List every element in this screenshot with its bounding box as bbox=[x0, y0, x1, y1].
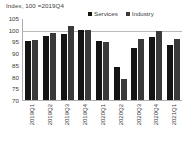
x-tick-cell: 2020Q1 bbox=[94, 102, 112, 144]
bar-services[interactable] bbox=[25, 41, 31, 100]
x-tick-cell: 2020Q3 bbox=[130, 102, 148, 144]
bar-groups bbox=[23, 19, 182, 100]
x-tick-cell: 2021Q1 bbox=[165, 102, 183, 144]
bar-group bbox=[129, 19, 147, 100]
legend-label-industry: Industry bbox=[132, 10, 154, 17]
x-axis-labels: 2019Q12019Q22019Q32019Q42020Q12020Q22020… bbox=[23, 102, 183, 144]
bar-group bbox=[76, 19, 94, 100]
x-tick-label: 2019Q3 bbox=[64, 104, 70, 125]
bar-group bbox=[164, 19, 182, 100]
x-tick-cell: 2019Q3 bbox=[59, 102, 77, 144]
bar-group bbox=[111, 19, 129, 100]
legend-item-industry[interactable]: Industry bbox=[126, 10, 154, 17]
chart-legend: Services Industry bbox=[88, 10, 154, 17]
bar-services[interactable] bbox=[61, 34, 67, 100]
bar-industry[interactable] bbox=[32, 40, 38, 100]
x-tick-cell: 2019Q1 bbox=[23, 102, 41, 144]
y-tick-label: 90 bbox=[12, 51, 19, 57]
x-tick-label: 2021Q1 bbox=[171, 104, 177, 125]
bar-services[interactable] bbox=[78, 30, 84, 100]
bar-industry[interactable] bbox=[103, 42, 109, 100]
bar-industry[interactable] bbox=[50, 33, 56, 100]
bar-industry[interactable] bbox=[174, 39, 180, 100]
bar-industry[interactable] bbox=[121, 79, 127, 100]
y-tick-label: 95 bbox=[12, 39, 19, 45]
bar-services[interactable] bbox=[114, 67, 120, 100]
y-tick-label: 70 bbox=[12, 98, 19, 104]
bar-group bbox=[23, 19, 41, 100]
x-tick-cell: 2019Q2 bbox=[41, 102, 59, 144]
bar-industry[interactable] bbox=[85, 30, 91, 100]
x-tick-label: 2020Q2 bbox=[118, 104, 124, 125]
bar-group bbox=[94, 19, 112, 100]
x-tick-label: 2019Q2 bbox=[47, 104, 53, 125]
bar-industry[interactable] bbox=[156, 31, 162, 100]
legend-swatch-industry bbox=[126, 12, 130, 16]
bar-services[interactable] bbox=[96, 41, 102, 100]
bar-services[interactable] bbox=[149, 37, 155, 100]
bar-industry[interactable] bbox=[138, 39, 144, 100]
legend-swatch-services bbox=[88, 12, 92, 16]
x-tick-label: 2020Q4 bbox=[153, 104, 159, 125]
x-tick-cell: 2019Q4 bbox=[76, 102, 94, 144]
x-tick-label: 2019Q4 bbox=[82, 104, 88, 125]
legend-label-services: Services bbox=[94, 10, 118, 17]
legend-item-services[interactable]: Services bbox=[88, 10, 118, 17]
x-tick-label: 2020Q1 bbox=[100, 104, 106, 125]
y-axis-labels: 105100959085807570 bbox=[0, 0, 20, 145]
bar-industry[interactable] bbox=[68, 26, 74, 100]
y-tick-label: 80 bbox=[12, 75, 19, 81]
bar-chart: Index, 100 =2019Q4 Services Industry 105… bbox=[0, 0, 185, 145]
y-tick-label: 75 bbox=[12, 86, 19, 92]
bar-services[interactable] bbox=[167, 45, 173, 100]
bar-services[interactable] bbox=[43, 36, 49, 100]
x-tick-label: 2020Q3 bbox=[136, 104, 142, 125]
x-tick-cell: 2020Q4 bbox=[147, 102, 165, 144]
bar-group bbox=[147, 19, 165, 100]
x-tick-cell: 2020Q2 bbox=[112, 102, 130, 144]
x-axis-line bbox=[22, 100, 182, 101]
y-tick-label: 100 bbox=[9, 28, 19, 34]
y-tick-label: 105 bbox=[9, 16, 19, 22]
y-tick-label: 85 bbox=[12, 63, 19, 69]
bar-group bbox=[41, 19, 59, 100]
bar-group bbox=[58, 19, 76, 100]
x-tick-label: 2019Q1 bbox=[29, 104, 35, 125]
bar-services[interactable] bbox=[131, 48, 137, 100]
plot-area bbox=[22, 19, 182, 101]
